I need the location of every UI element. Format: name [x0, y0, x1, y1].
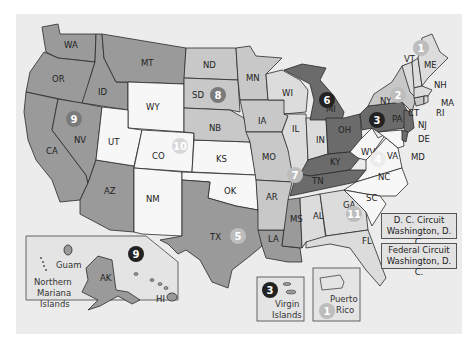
guam-shape — [64, 245, 72, 255]
cnmi-label-1: Northern — [34, 277, 72, 287]
svg-text:WA: WA — [64, 40, 78, 50]
svg-text:11: 11 — [347, 209, 361, 220]
dc-circuit-box[interactable]: D. C. Circuit Washington, D. C. — [381, 213, 457, 239]
badge-circuit-3-vi-num: 3 — [267, 285, 274, 296]
pr-shape — [320, 275, 344, 290]
cnmi-label-2: Mariana — [37, 288, 71, 298]
svg-text:CA: CA — [46, 146, 58, 156]
svg-text:ME: ME — [424, 60, 437, 70]
svg-text:WY: WY — [146, 102, 160, 112]
svg-text:MA: MA — [441, 98, 454, 108]
svg-text:RI: RI — [436, 108, 444, 118]
federal-circuit-location: Washington, D. C. — [382, 256, 456, 278]
guam-label: Guam — [56, 260, 81, 270]
svg-text:8: 8 — [215, 90, 222, 101]
svg-text:1: 1 — [418, 43, 425, 54]
svg-text:OK: OK — [224, 186, 237, 196]
federal-circuit-box[interactable]: Federal Circuit Washington, D. C. — [381, 243, 457, 269]
state-hi-island[interactable] — [167, 293, 177, 301]
svg-text:IL: IL — [292, 124, 300, 134]
svg-text:SC: SC — [366, 193, 377, 203]
svg-text:OH: OH — [338, 125, 351, 135]
state-ma[interactable] — [414, 86, 432, 98]
svg-text:NH: NH — [434, 80, 447, 90]
svg-text:5: 5 — [235, 231, 242, 242]
svg-text:LA: LA — [268, 234, 279, 244]
svg-text:10: 10 — [173, 141, 187, 152]
svg-text:MO: MO — [262, 152, 276, 162]
svg-text:MS: MS — [290, 214, 303, 224]
svg-text:SD: SD — [192, 90, 204, 100]
svg-text:OR: OR — [52, 74, 65, 84]
cnmi-label-3: Islands — [40, 299, 70, 309]
svg-text:CT: CT — [408, 108, 420, 118]
svg-text:FL: FL — [362, 236, 372, 246]
svg-text:TN: TN — [311, 176, 324, 186]
state-ri[interactable] — [424, 96, 428, 104]
federal-circuit-title: Federal Circuit — [382, 245, 456, 256]
svg-text:ID: ID — [98, 87, 108, 97]
svg-text:MN: MN — [246, 73, 260, 83]
svg-text:VA: VA — [387, 151, 398, 161]
state-de[interactable] — [402, 130, 408, 142]
svg-text:7: 7 — [292, 170, 299, 181]
vi-label-2: Islands — [272, 310, 302, 320]
us-circuit-map: Guam Northern Mariana Islands AK HI 9 3 … — [0, 0, 474, 339]
vi-label-1: Virgin — [275, 299, 299, 309]
svg-text:VT: VT — [404, 54, 416, 64]
badge-circuit-1-pr-num: 1 — [324, 306, 331, 317]
svg-text:9: 9 — [71, 114, 78, 125]
label-ak: AK — [100, 273, 112, 283]
svg-text:MT: MT — [141, 58, 154, 68]
pr-label-2: Rico — [336, 305, 354, 315]
svg-text:2: 2 — [395, 90, 402, 101]
svg-text:NJ: NJ — [418, 120, 427, 130]
svg-text:WI: WI — [282, 88, 293, 98]
svg-text:UT: UT — [108, 137, 120, 147]
vi-shape — [283, 283, 291, 286]
svg-text:4: 4 — [375, 154, 382, 165]
svg-text:NC: NC — [378, 172, 390, 182]
svg-text:6: 6 — [324, 95, 331, 106]
svg-text:IA: IA — [258, 116, 267, 126]
svg-text:DE: DE — [418, 134, 430, 144]
svg-text:ND: ND — [203, 60, 216, 70]
label-hi: HI — [156, 294, 165, 304]
svg-text:NB: NB — [209, 123, 221, 133]
svg-text:MD: MD — [411, 152, 425, 162]
svg-text:PA: PA — [392, 114, 403, 124]
svg-text:NM: NM — [146, 194, 160, 204]
svg-text:TX: TX — [209, 232, 221, 242]
svg-text:KY: KY — [330, 157, 341, 167]
svg-text:NV: NV — [74, 135, 86, 145]
svg-text:3: 3 — [374, 115, 381, 126]
dc-circuit-title: D. C. Circuit — [382, 215, 456, 226]
svg-text:IN: IN — [316, 135, 325, 145]
svg-text:KS: KS — [216, 154, 227, 164]
badge-circuit-9-pacific-num: 9 — [133, 249, 140, 260]
svg-text:AR: AR — [266, 192, 278, 202]
svg-text:AZ: AZ — [104, 186, 116, 196]
pr-label-1: Puerto — [330, 294, 358, 304]
svg-text:AL: AL — [313, 211, 324, 221]
svg-text:CO: CO — [152, 151, 165, 161]
vi-shape-2 — [286, 290, 296, 294]
